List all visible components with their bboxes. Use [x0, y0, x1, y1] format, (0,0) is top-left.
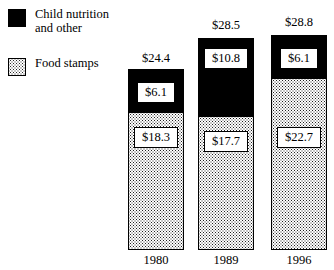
bar-segment-food-stamps-1980: $18.3: [129, 113, 183, 249]
x-tick-label-1996: 1996: [271, 253, 327, 267]
bar-total-label-1996: $28.8: [271, 16, 327, 29]
bar-total-label-1989: $28.5: [198, 19, 254, 32]
x-tick-label-1980: 1980: [128, 253, 184, 267]
bar-segment-food-stamps-1989: $17.7: [199, 117, 253, 249]
stacked-bar-chart: Child nutrition and other Food stamps $2…: [0, 0, 334, 270]
bar-segment-food-stamps-1996: $22.7: [272, 79, 326, 249]
bar-stack-1989: $10.8 $17.7: [198, 38, 254, 250]
bar-total-label-1980: $24.4: [128, 52, 184, 65]
bar-segment-child-nutrition-1989: $10.8: [199, 39, 253, 119]
bar-stack-1996: $6.1 $22.7: [271, 35, 327, 250]
bar-value-child-nutrition-1989: $10.8: [204, 48, 248, 69]
bar-value-child-nutrition-1996: $6.1: [280, 48, 318, 69]
bar-value-child-nutrition-1980: $6.1: [137, 82, 175, 103]
x-tick-label-1989: 1989: [198, 253, 254, 267]
bar-segment-child-nutrition-1996: $6.1: [272, 36, 326, 81]
bar-segment-child-nutrition-1980: $6.1: [129, 70, 183, 115]
bar-group-1980: $24.4 $6.1 $18.3 1980: [128, 0, 184, 270]
bar-group-1989: $28.5 $10.8 $17.7 1989: [198, 0, 254, 270]
bar-group-1996: $28.8 $6.1 $22.7 1996: [271, 0, 327, 270]
bar-value-food-stamps-1989: $17.7: [204, 131, 248, 152]
bar-value-food-stamps-1996: $22.7: [277, 127, 321, 148]
bar-value-food-stamps-1980: $18.3: [134, 127, 178, 148]
bar-stack-1980: $6.1 $18.3: [128, 69, 184, 250]
plot-area: $24.4 $6.1 $18.3 1980 $28.5 $10.8 $17.7: [0, 0, 334, 270]
